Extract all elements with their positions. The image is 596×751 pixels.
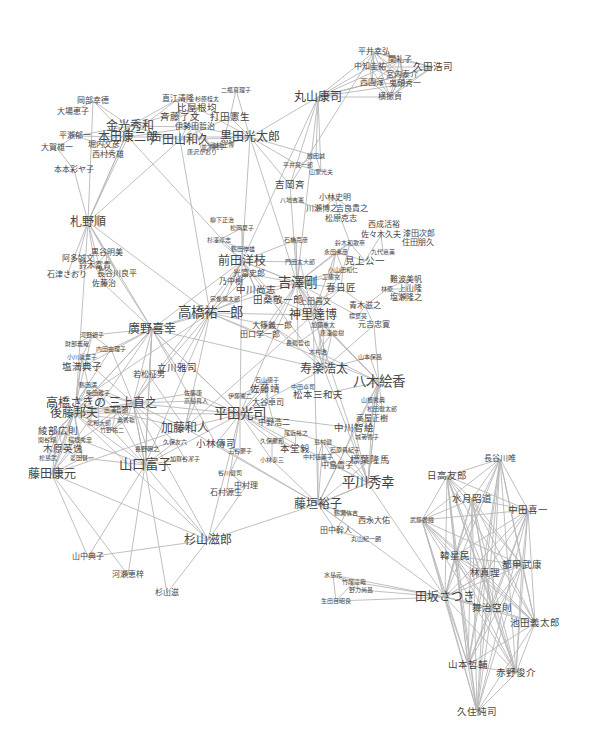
graph-node: 林真理 — [470, 568, 500, 578]
graph-node: 日高友郎 — [427, 471, 467, 481]
graph-node: 小林泰三 — [260, 457, 284, 463]
graph-node: 廣野喜幸 — [128, 323, 176, 335]
graph-node: 見上公一 — [345, 256, 385, 266]
graph-node: 田桑敬一郎 — [253, 295, 303, 305]
graph-node: 石原真紀子 — [330, 447, 360, 453]
graph-node: 元吉忠寛 — [358, 321, 390, 329]
graph-node: 久住純司 — [457, 707, 497, 717]
graph-node: 石津さおり — [47, 271, 87, 279]
graph-node: 工藤充 — [322, 274, 340, 280]
graph-node: 内田由理子 — [96, 346, 126, 352]
graph-node: 石橋克彦 — [284, 237, 308, 243]
graph-node: 山家光夫 — [309, 169, 333, 175]
graph-node: 伊勢田哲治 — [175, 123, 215, 131]
graph-node: 上山隆 — [398, 285, 422, 293]
graph-node: 長谷川良平 — [97, 270, 137, 278]
graph-node: 佐藤靖 — [250, 384, 280, 394]
graph-node: 佐々木久夫 — [361, 231, 401, 239]
graph-node: 打田憲生 — [210, 112, 250, 122]
graph-node: 吉良貴之 — [336, 205, 368, 213]
graph-node: 菱田賢一 — [70, 455, 94, 461]
graph-node: 塩瀬隆之 — [390, 294, 422, 302]
graph-node: 小川眞里子 — [67, 354, 97, 360]
graph-node: 高島真人 — [184, 398, 208, 404]
graph-node: 舞治空則 — [472, 603, 512, 613]
graph-node: 川瀬博之 — [306, 205, 338, 213]
graph-node: 八木絵香 — [353, 375, 405, 389]
graph-node: 鬼頭秀一 — [389, 80, 421, 88]
graph-node: 横振貞 — [378, 93, 402, 101]
graph-node: 河野銀子 — [80, 332, 104, 338]
graph-node: 松原克志 — [325, 215, 357, 223]
graph-node: 若松征男 — [133, 371, 165, 379]
graph-node: 三上直之 — [109, 397, 157, 409]
graph-node: 門田太大郎 — [285, 259, 315, 265]
graph-node: 木村浩 — [309, 349, 327, 355]
graph-node: 河瀬恵梓 — [112, 571, 144, 579]
graph-node: 標葉亮 — [349, 313, 367, 319]
graph-node: 鶴瀬信吉 — [334, 510, 358, 516]
graph-node: 西成活裕 — [368, 221, 400, 229]
graph-node: 斉藤了文 — [160, 112, 200, 122]
graph-node: 加藤和人 — [161, 422, 209, 434]
graph-edges — [0, 0, 596, 751]
graph-node: 山中典子 — [72, 553, 104, 561]
graph-node: 宗像慎太郎 — [210, 296, 240, 302]
graph-node: 本本彩ヤ子 — [54, 166, 94, 174]
graph-node: 長嶋哲也 — [286, 340, 310, 346]
graph-node: 野力尚昌 — [349, 587, 373, 593]
graph-node: 神里達博 — [289, 309, 337, 321]
graph-node: 韓星民 — [440, 551, 470, 561]
graph-node: 寿楽浩太 — [300, 363, 348, 375]
graph-node: 中田喜一 — [508, 505, 548, 515]
graph-node: 水月昭道 — [452, 494, 492, 504]
graph-node: 札野順 — [70, 216, 106, 228]
graph-node: 杉山滋郎 — [184, 534, 232, 546]
graph-node: 都甲武康 — [502, 560, 542, 570]
graph-node: 唐澤俊樹 — [320, 330, 344, 336]
graph-node: 大場恵子 — [57, 108, 89, 116]
graph-node: 水島元 — [324, 572, 342, 578]
graph-node: 標葉隆馬 — [350, 455, 390, 465]
graph-node: 西村秀雄 — [92, 151, 124, 159]
graph-node: 田中幹人 — [320, 527, 352, 535]
graph-node: 松本三和夫 — [293, 390, 343, 400]
graph-node: 奥香聡 — [117, 417, 135, 423]
graph-node: 田坂さつき — [415, 591, 475, 603]
graph-node: 石村源生 — [210, 489, 242, 497]
graph-node: 難波美帆 — [390, 276, 422, 284]
graph-node: 飯田誠 — [307, 153, 325, 159]
graph-node: 山根秀典 — [361, 397, 385, 403]
network-graph: 丸山康司平井幸弘関礼子中知圭祐久田浩司宮内泰介西園淳鬼頭秀一横振貞吉岡斉飯田誠平… — [0, 0, 596, 751]
graph-node: 関谷翔 — [38, 437, 56, 443]
graph-node: 唐沢かおり — [187, 149, 217, 155]
graph-node: 加賀谷潔子 — [170, 456, 200, 462]
graph-node: 永田素彦 — [324, 249, 348, 255]
graph-node: 山口富子 — [119, 458, 171, 472]
graph-node: 佐藤治 — [92, 280, 116, 288]
graph-node: 竹尾凌哉 — [342, 579, 366, 585]
graph-node: 杉山滋 — [155, 589, 179, 597]
graph-node: 中村征美子 — [303, 454, 333, 460]
graph-node: 中知圭祐 — [354, 63, 386, 71]
graph-node: 春日匠 — [326, 283, 356, 293]
graph-node: 杉原桂太 — [195, 96, 219, 102]
graph-node: 関礼子 — [388, 56, 412, 64]
graph-node: 平川秀幸 — [342, 476, 394, 490]
graph-node: 谷川健司 — [218, 470, 242, 476]
graph-node: 財部義哉 — [65, 341, 89, 347]
graph-node: 島村健 — [314, 439, 332, 445]
graph-node: 綾部広則 — [38, 426, 78, 436]
graph-node: 長谷川唯 — [484, 455, 516, 463]
graph-node: 鈴木和歌奈 — [335, 240, 365, 246]
graph-node: 稲垣秀忠 — [68, 437, 92, 443]
graph-node: 丸山紀一朗 — [351, 536, 381, 542]
graph-node: 佐藤康 — [184, 390, 202, 396]
graph-node: 吉澤剛 — [278, 276, 317, 290]
graph-node: 中野浩二 — [258, 419, 290, 427]
graph-node: 宮内泰介 — [386, 71, 418, 79]
graph-node: 堀内文彦 — [88, 141, 120, 149]
graph-node: 九代嘉美 — [371, 249, 395, 255]
graph-node: 城菊香子 — [355, 434, 379, 440]
graph-node: 久田浩司 — [413, 62, 453, 72]
